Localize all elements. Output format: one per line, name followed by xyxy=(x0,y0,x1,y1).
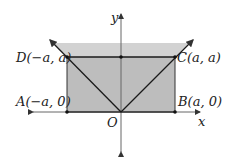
point-b xyxy=(173,110,177,114)
label-y-axis: y xyxy=(110,10,119,25)
label-origin: O xyxy=(107,115,118,130)
label-point-a: A(−a, 0) xyxy=(15,94,71,109)
label-point-d: D(−a, a) xyxy=(15,50,71,65)
point-a xyxy=(65,110,69,114)
label-point-c: C(a, a) xyxy=(177,50,221,65)
point-y-a xyxy=(119,55,123,59)
label-point-b: B(a, 0) xyxy=(177,94,222,109)
label-x-axis: x xyxy=(198,114,206,129)
coordinate-diagram: y x O D(−a, a) C(a, a) A(−a, 0) B(a, 0) xyxy=(0,0,228,165)
